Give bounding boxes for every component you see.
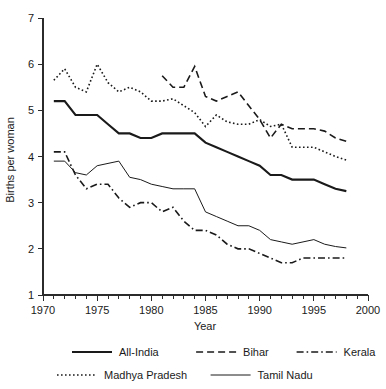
legend-label-madhya-pradesh[interactable]: Madhya Pradesh [104,369,187,381]
x-tick-label-1970: 1970 [31,304,55,316]
legend-label-bihar[interactable]: Bihar [243,346,269,358]
x-tick-label-1980: 1980 [139,304,163,316]
x-axis-title: Year [194,320,217,332]
legend-label-tamil-nadu[interactable]: Tamil Nadu [258,369,313,381]
y-tick-label-3: 3 [28,197,34,209]
chart-container: 1234567 1970197519801985199019952000 Yea… [0,0,386,389]
y-tick-label-1: 1 [28,289,34,301]
x-tick-label-1990: 1990 [247,304,271,316]
x-tick-label-1995: 1995 [302,304,326,316]
y-tick-label-2: 2 [28,243,34,255]
x-tick-label-1985: 1985 [193,304,217,316]
y-tick-label-7: 7 [28,12,34,24]
legend-label-all-india[interactable]: All-India [119,346,160,358]
x-tick-label-2000: 2000 [356,304,380,316]
fertility-line-chart: 1234567 1970197519801985199019952000 Yea… [0,0,386,389]
x-tick-label-1975: 1975 [85,304,109,316]
legend-label-kerala[interactable]: Kerala [344,346,377,358]
y-tick-label-6: 6 [28,58,34,70]
y-tick-label-4: 4 [28,151,34,163]
y-tick-label-5: 5 [28,104,34,116]
y-axis-title: Births per woman [4,117,16,203]
